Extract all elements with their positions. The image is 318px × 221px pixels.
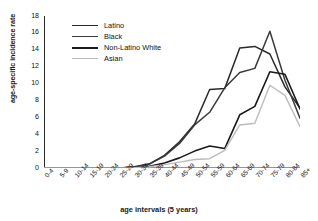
legend-item-asian[interactable]: Asian	[72, 53, 192, 64]
x-tick-label: 85+	[299, 166, 312, 179]
y-axis-title: age-specific incidence rate	[8, 0, 17, 119]
legend-label: Black	[104, 32, 122, 41]
legend-swatch-icon	[72, 25, 98, 26]
y-tick-label: 2	[17, 147, 39, 154]
legend-swatch-icon	[72, 36, 98, 37]
y-tick-label: 18	[17, 12, 39, 19]
y-tick-label: 4	[17, 130, 39, 137]
y-tick-label: 12	[17, 62, 39, 69]
y-tick-label: 8	[17, 96, 39, 103]
chart-container: age-specific incidence rate 024681012141…	[0, 0, 318, 221]
y-tick-label: 6	[17, 113, 39, 120]
series-line-non-latino-white	[44, 72, 300, 168]
legend-label: Latino	[104, 21, 124, 30]
x-axis-title: age intervals (5 years)	[0, 205, 318, 214]
series-line-asian	[44, 85, 300, 168]
y-tick-label: 16	[17, 28, 39, 35]
legend: LatinoBlackNon-Latino WhiteAsian	[72, 20, 192, 64]
legend-swatch-icon	[72, 47, 98, 49]
legend-item-black[interactable]: Black	[72, 31, 192, 42]
y-tick-label: 10	[17, 79, 39, 86]
legend-item-non-latino-white[interactable]: Non-Latino White	[72, 42, 192, 53]
x-tick-label: 0-4	[43, 167, 55, 179]
legend-item-latino[interactable]: Latino	[72, 20, 192, 31]
x-tick-label: 5-9	[58, 167, 70, 179]
legend-label: Non-Latino White	[104, 43, 161, 52]
legend-swatch-icon	[72, 58, 98, 59]
y-tick-label: 14	[17, 45, 39, 52]
legend-label: Asian	[104, 54, 123, 63]
y-tick-label: 0	[17, 164, 39, 171]
